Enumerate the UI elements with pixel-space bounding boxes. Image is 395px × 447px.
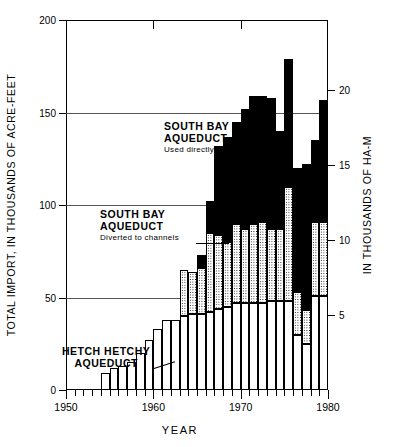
y-tick-left [59,20,66,21]
y-tick-right [328,165,335,166]
bar-segment [293,292,302,335]
x-tick-minor [83,390,84,396]
x-tick-minor [180,390,181,396]
x-tick-minor [188,390,189,396]
x-tick-label: 1980 [316,401,339,413]
annotation-hetch-hetchy: HETCH HETCHY AQUEDUCT [62,345,150,369]
x-tick-major [153,390,154,399]
y-tick-right [328,315,335,316]
x-tick-minor [101,390,102,396]
bar-group [153,20,162,390]
bar-segment [188,314,197,390]
bar-segment [311,140,320,221]
bar-segment [302,344,311,390]
y-tick-left [59,205,66,206]
x-tick-major [66,390,67,399]
bar-segment [276,131,285,229]
bar-segment [171,320,180,390]
bar-segment [249,303,258,390]
annotation-used-directly: SOUTH BAY AQUEDUCT Used directly [164,120,229,156]
bar-segment [188,272,197,315]
y-tick-label-right: 20 [339,85,350,96]
x-tick-minor [171,390,172,396]
bar-segment [214,309,223,390]
x-tick-major [241,390,242,399]
bar-segment [241,109,250,229]
bar-segment [249,224,258,304]
x-tick-minor [223,390,224,396]
bar-group [145,20,154,390]
y-tick-right [328,240,335,241]
bar-segment [223,242,232,307]
bar-group [311,20,320,390]
bar-group [276,20,285,390]
bar-segment [258,96,267,222]
bar-group [258,20,267,390]
y-tick-left [59,390,66,391]
annotation-used-directly-line1: SOUTH BAY [164,120,229,132]
x-tick-minor [319,390,320,396]
bar-group [127,20,136,390]
y-tick-right [328,90,335,91]
bar-segment [284,59,293,187]
bar-segment [118,366,127,390]
x-tick-label: 1970 [229,401,252,413]
leader-line-diverted [196,243,229,244]
bar-segment [293,335,302,391]
annotation-diverted-line2: AQUEDUCT [100,220,179,232]
bar-segment [214,146,223,235]
bar-segment [311,296,320,390]
x-tick-label: 1960 [142,401,165,413]
x-tick-top [153,20,154,29]
x-tick-major [328,390,329,399]
annotation-diverted: SOUTH BAY AQUEDUCT Diverted to channels [100,208,179,244]
bar-segment [197,255,206,268]
y-tick-left [59,113,66,114]
y-axis-left-title: TOTAL IMPORT, IN THOUSANDS OF ACRE-FEET [2,20,20,390]
bar-group [171,20,180,390]
bar-segment [110,368,119,390]
bar-group [214,20,223,390]
y-tick-label-right: 15 [339,160,350,171]
x-tick-minor [302,390,303,396]
bar-group [110,20,119,390]
bar-segment [241,303,250,390]
bar-group [197,20,206,390]
bar-group [267,20,276,390]
x-tick-minor [293,390,294,396]
bar-segment [276,301,285,390]
bar-segment [197,314,206,390]
y-tick-label-left: 0 [50,385,56,396]
x-tick-minor [136,390,137,396]
bar-group [101,20,110,390]
bar-group [118,20,127,390]
y-axis-right-title: IN THOUSANDS OF HA-M [358,60,376,350]
annotation-diverted-line3: Diverted to channels [100,232,179,244]
x-tick-minor [311,390,312,396]
x-tick-minor [206,390,207,396]
bar-segment [153,329,162,390]
bar-segment [276,229,285,301]
bar-group [302,20,311,390]
bar-group [188,20,197,390]
figure-bar-chart: TOTAL IMPORT, IN THOUSANDS OF ACRE-FEET … [0,0,395,447]
y-tick-label-left: 100 [39,200,56,211]
bar-group [284,20,293,390]
bar-group [319,20,328,390]
x-tick-top [241,20,242,29]
bar-segment [267,229,276,301]
plot-area: 050100150200 5101520 1950196019701980 [66,20,328,390]
x-tick-minor [162,390,163,396]
bar-segment [232,224,241,304]
x-tick-minor [258,390,259,396]
bar-segment [267,98,276,229]
bar-segment [249,96,258,224]
bar-group [293,20,302,390]
bar-segment [241,229,250,303]
y-tick-left [59,298,66,299]
bar-segment [180,316,189,390]
annotation-hetch-hetchy-line2: AQUEDUCT [62,357,150,369]
bar-segment [319,100,328,222]
annotation-used-directly-line2: AQUEDUCT [164,132,229,144]
x-tick-minor [127,390,128,396]
